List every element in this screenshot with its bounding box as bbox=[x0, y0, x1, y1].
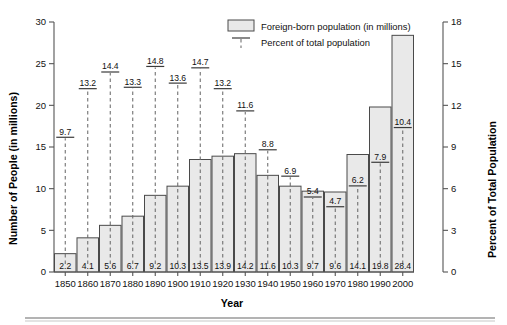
percent-value-label: 9.7 bbox=[59, 127, 71, 137]
bar-value-label: 6.7 bbox=[127, 261, 139, 271]
y-tick-label: 20 bbox=[35, 100, 46, 111]
bar-value-label: 14.2 bbox=[237, 261, 254, 271]
y2-tick-label: 12 bbox=[451, 100, 462, 111]
y2-tick-label: 15 bbox=[451, 58, 462, 69]
bar-value-label: 9.6 bbox=[329, 261, 341, 271]
percent-value-label: 7.9 bbox=[374, 152, 386, 162]
y2-tick-label: 0 bbox=[451, 266, 456, 277]
bar-value-label: 2.2 bbox=[59, 261, 71, 271]
bar-value-label: 10.3 bbox=[282, 261, 299, 271]
x-tick-label: 1970 bbox=[325, 278, 346, 289]
bar-value-label: 9.2 bbox=[149, 261, 161, 271]
legend-swatch-bar-icon bbox=[228, 20, 254, 31]
bar-value-label: 19.8 bbox=[372, 261, 389, 271]
x-tick-label: 1960 bbox=[302, 278, 323, 289]
x-tick-label: 2000 bbox=[392, 278, 413, 289]
y-tick-label: 25 bbox=[35, 58, 46, 69]
y2-tick-label: 9 bbox=[451, 141, 456, 152]
x-tick-label: 1940 bbox=[257, 278, 278, 289]
x-tick-label: 1930 bbox=[235, 278, 256, 289]
y2-tick-label: 18 bbox=[451, 16, 462, 27]
percent-value-label: 11.6 bbox=[237, 100, 253, 110]
x-tick-label: 1880 bbox=[122, 278, 143, 289]
bar-value-label: 13.9 bbox=[214, 261, 231, 271]
y-tick-label: 15 bbox=[35, 141, 46, 152]
percent-value-label: 13.2 bbox=[214, 78, 231, 88]
percent-value-label: 10.4 bbox=[394, 117, 411, 127]
x-tick-label: 1990 bbox=[370, 278, 391, 289]
x-tick-label: 1900 bbox=[167, 278, 188, 289]
y-axis-title: Number of People (in millions) bbox=[7, 92, 19, 245]
x-tick-label: 1850 bbox=[55, 278, 76, 289]
y-tick-label: 10 bbox=[35, 183, 46, 194]
bar-value-label: 4.1 bbox=[82, 261, 94, 271]
percent-value-label: 6.9 bbox=[284, 166, 296, 176]
x-axis-title: Year bbox=[221, 297, 243, 309]
percent-value-label: 13.3 bbox=[124, 77, 141, 87]
percent-value-label: 14.8 bbox=[147, 56, 164, 66]
x-tick-label: 1980 bbox=[347, 278, 368, 289]
percent-value-label: 4.7 bbox=[329, 196, 341, 206]
x-tick-label: 1890 bbox=[145, 278, 166, 289]
x-tick-label: 1910 bbox=[190, 278, 211, 289]
y2-tick-label: 3 bbox=[451, 225, 456, 236]
bar-value-label: 14.1 bbox=[349, 261, 366, 271]
percent-value-label: 13.2 bbox=[79, 78, 96, 88]
bar-value-label: 11.6 bbox=[260, 261, 276, 271]
bar-value-label: 9.7 bbox=[307, 261, 319, 271]
chart-canvas: 051015202530 0369121518 9.713.214.413.31… bbox=[0, 0, 507, 325]
y2-tick-label: 6 bbox=[451, 183, 456, 194]
bar-value-label: 28.4 bbox=[394, 261, 411, 271]
foreign-born-population-chart: 051015202530 0369121518 9.713.214.413.31… bbox=[0, 0, 507, 325]
y-tick-label: 0 bbox=[41, 266, 46, 277]
percent-value-label: 8.8 bbox=[262, 139, 274, 149]
bar-value-label: 13.5 bbox=[192, 261, 209, 271]
x-tick-label: 1860 bbox=[77, 278, 98, 289]
y-tick-label: 5 bbox=[41, 225, 46, 236]
percent-value-label: 14.4 bbox=[102, 61, 119, 71]
bar-value-label: 5.6 bbox=[104, 261, 116, 271]
percent-value-label: 6.2 bbox=[352, 175, 364, 185]
legend-label: Foreign-born population (in millions) bbox=[261, 21, 411, 32]
x-tick-label: 1870 bbox=[100, 278, 121, 289]
y-tick-label: 30 bbox=[35, 16, 46, 27]
percent-value-label: 5.4 bbox=[307, 186, 319, 196]
x-tick-label: 1920 bbox=[212, 278, 233, 289]
percent-value-label: 13.6 bbox=[169, 73, 186, 83]
y2-axis-title: Percent of Total Population bbox=[486, 121, 498, 258]
bar-value-label: 10.3 bbox=[169, 261, 186, 271]
percent-value-label: 14.7 bbox=[192, 57, 209, 67]
legend-label: Percent of total population bbox=[261, 37, 370, 48]
x-tick-label: 1950 bbox=[280, 278, 301, 289]
